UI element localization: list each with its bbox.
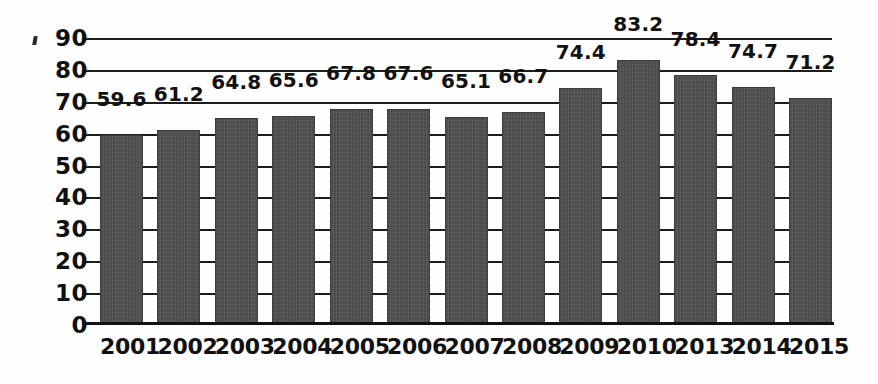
bar-column[interactable]: 83.2 <box>617 38 660 325</box>
bar-value-label: 78.4 <box>671 27 721 51</box>
y-tick-label: 90 <box>55 25 88 51</box>
bar-column[interactable]: 64.8 <box>215 38 258 325</box>
bar-column[interactable]: 59.6 <box>100 38 143 325</box>
y-tick-label: 10 <box>55 280 88 306</box>
bar[interactable] <box>674 75 717 325</box>
y-tick-label: 50 <box>55 153 88 179</box>
bar-column[interactable]: 65.6 <box>272 38 315 325</box>
x-tick-label: 2014 <box>732 334 775 359</box>
x-tick-label: 2010 <box>617 334 660 359</box>
plot-area: 0102030405060708090 59.661.264.865.667.8… <box>100 38 832 325</box>
bar-value-label: 64.8 <box>211 70 261 94</box>
bar[interactable] <box>272 116 315 325</box>
bar-column[interactable]: 67.6 <box>387 38 430 325</box>
y-tick-label: 0 <box>71 312 88 338</box>
bar-column[interactable]: 65.1 <box>445 38 488 325</box>
bar[interactable] <box>559 88 602 325</box>
x-tick-label: 2015 <box>789 334 832 359</box>
x-axis-labels: 2001200220032004200520062007200820092010… <box>100 334 832 374</box>
y-tick-label: 20 <box>55 248 88 274</box>
y-tick-label: 80 <box>55 57 88 83</box>
bar-column[interactable]: 74.4 <box>559 38 602 325</box>
x-tick-label: 2005 <box>330 334 373 359</box>
y-tick-label: 40 <box>55 184 88 210</box>
bar-value-label: 74.4 <box>556 40 606 64</box>
bar-column[interactable]: 74.7 <box>732 38 775 325</box>
bar[interactable] <box>617 60 660 325</box>
y-tick-label: 30 <box>55 216 88 242</box>
bar-value-label: 59.6 <box>96 87 146 111</box>
scan-artifact-mark <box>32 36 38 45</box>
bar-column[interactable]: 71.2 <box>789 38 832 325</box>
bar-column[interactable]: 66.7 <box>502 38 545 325</box>
x-tick-label: 2001 <box>100 334 143 359</box>
x-tick-label: 2003 <box>215 334 258 359</box>
y-tick-label: 60 <box>55 121 88 147</box>
bar-value-label: 67.8 <box>326 61 376 85</box>
bar[interactable] <box>502 112 545 325</box>
x-tick-label: 2004 <box>272 334 315 359</box>
x-tick-label: 2009 <box>559 334 602 359</box>
bar-value-label: 74.7 <box>728 39 778 63</box>
x-tick-label: 2007 <box>445 334 488 359</box>
x-tick-label: 2013 <box>674 334 717 359</box>
bar[interactable] <box>215 118 258 325</box>
x-tick-label: 2008 <box>502 334 545 359</box>
bars-group: 59.661.264.865.667.867.665.166.774.483.2… <box>100 38 832 325</box>
x-axis-baseline <box>82 322 834 325</box>
bar[interactable] <box>330 109 373 325</box>
bar-column[interactable]: 61.2 <box>157 38 200 325</box>
bar-column[interactable]: 78.4 <box>674 38 717 325</box>
bar[interactable] <box>445 117 488 325</box>
bar-value-label: 67.6 <box>384 61 434 85</box>
bar-value-label: 65.1 <box>441 69 491 93</box>
x-tick-label: 2002 <box>157 334 200 359</box>
bar-value-label: 71.2 <box>785 50 835 74</box>
bar-value-label: 61.2 <box>154 82 204 106</box>
x-tick-label: 2006 <box>387 334 430 359</box>
bar-value-label: 65.6 <box>269 68 319 92</box>
bar[interactable] <box>789 98 832 325</box>
y-tick-label: 70 <box>55 89 88 115</box>
bar-chart: 0102030405060708090 59.661.264.865.667.8… <box>0 0 878 384</box>
bar[interactable] <box>387 109 430 325</box>
bar-value-label: 83.2 <box>613 12 663 36</box>
bar-value-label: 66.7 <box>498 64 548 88</box>
bar[interactable] <box>732 87 775 325</box>
bar[interactable] <box>157 130 200 325</box>
bar[interactable] <box>100 135 143 325</box>
bar-column[interactable]: 67.8 <box>330 38 373 325</box>
